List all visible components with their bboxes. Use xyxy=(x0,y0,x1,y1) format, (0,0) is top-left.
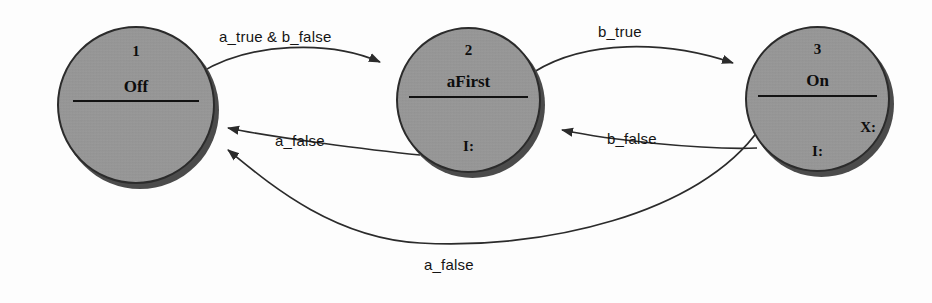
node-id-label: 3 xyxy=(745,42,890,57)
node-id-label: 2 xyxy=(396,43,541,58)
state-diagram-canvas: 1 Off 2 aFirst I: 3 On X: I: a_true & b_… xyxy=(0,0,932,303)
state-node-1[interactable]: 1 Off xyxy=(57,26,215,184)
node-note-label: I: xyxy=(396,139,541,154)
node-divider xyxy=(758,95,877,97)
edge-1-to-2 xyxy=(200,47,380,73)
edge-3-to-2 xyxy=(562,130,757,148)
edge-label-2-to-1: a_false xyxy=(275,132,325,149)
node-divider xyxy=(409,96,528,98)
edge-label-1-to-2: a_true & b_false xyxy=(219,28,331,45)
node-id-label: 1 xyxy=(57,44,215,59)
node-name-label: On xyxy=(745,72,890,89)
node-divider xyxy=(73,100,199,102)
node-note-label: I: xyxy=(745,144,890,159)
edge-label-3-to-1: a_false xyxy=(424,256,474,273)
edge-label-2-to-3: b_true xyxy=(598,23,642,40)
state-node-3[interactable]: 3 On X: I: xyxy=(745,26,890,172)
node-note-secondary-label: X: xyxy=(745,120,890,135)
state-node-2[interactable]: 2 aFirst I: xyxy=(396,27,541,173)
node-name-label: aFirst xyxy=(396,73,541,90)
edge-label-3-to-2: b_false xyxy=(607,130,657,147)
edge-2-to-3 xyxy=(534,47,733,72)
node-name-label: Off xyxy=(57,78,215,95)
